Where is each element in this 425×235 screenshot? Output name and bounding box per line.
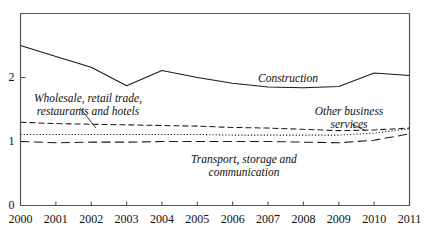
- x-tick-label: 2004: [142, 213, 182, 225]
- y-tick-label: 0: [0, 199, 15, 211]
- y-tick-label: 2: [0, 71, 15, 83]
- annotation-transport: Transport, storage and communication: [169, 153, 319, 179]
- x-tick-label: 2008: [283, 213, 323, 225]
- x-tick-label: 2010: [354, 213, 394, 225]
- x-tick-label: 2001: [36, 213, 76, 225]
- series-line-3: [21, 134, 410, 143]
- annotation-other-business-services: Other business services: [274, 105, 424, 131]
- y-tick-label: 1: [0, 135, 15, 147]
- x-tick-label: 2011: [390, 213, 425, 225]
- x-tick-label: 2003: [107, 213, 147, 225]
- x-tick-label: 2006: [213, 213, 253, 225]
- annotation-wholesale: Wholesale, retail trade, restaurants and…: [13, 92, 163, 118]
- x-tick-label: 2007: [248, 213, 288, 225]
- x-tick-label: 2000: [1, 213, 41, 225]
- x-tick-label: 2005: [177, 213, 217, 225]
- x-tick-label: 2009: [319, 213, 359, 225]
- annotation-construction: Construction: [213, 72, 363, 85]
- x-tick-label: 2002: [71, 213, 111, 225]
